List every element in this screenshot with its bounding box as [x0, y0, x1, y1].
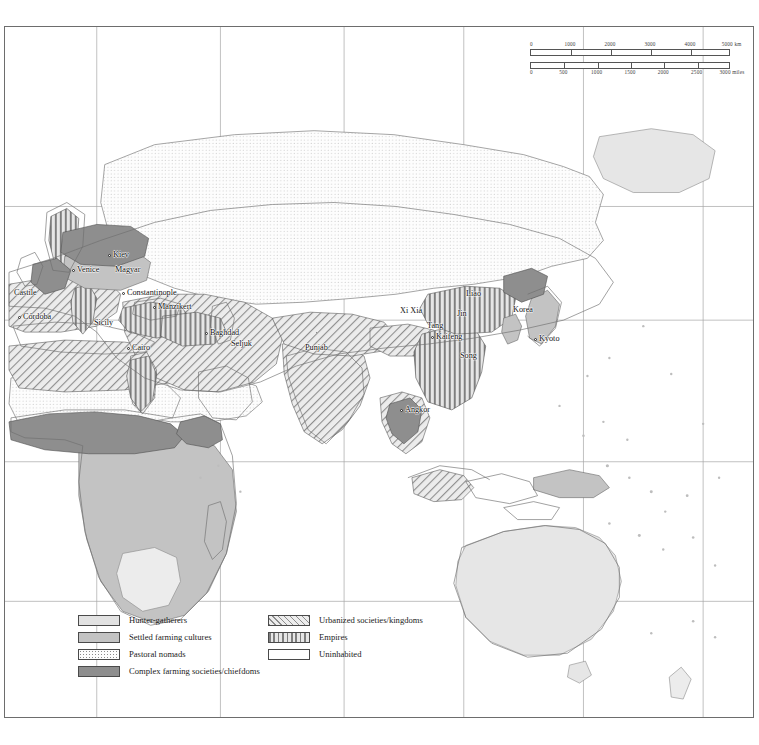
legend-swatch [78, 615, 120, 626]
scale-bar: 010002000300040005000 km0500100015002000… [530, 38, 736, 74]
scale-tick [631, 63, 632, 68]
scale-label: 4000 [684, 41, 695, 47]
legend-label: Pastoral nomads [129, 650, 186, 659]
legend-item: Settled farming cultures [78, 629, 260, 646]
scale-label: 3000 [644, 41, 655, 47]
legend-item: Uninhabited [268, 646, 423, 663]
scale-bar-miles-track [530, 62, 730, 69]
legend-label: Complex farming societies/chiefdoms [129, 667, 260, 676]
legend-label: Uninhabited [319, 650, 361, 659]
scale-tick [564, 63, 565, 68]
scale-tick [691, 50, 692, 55]
legend-column-right: Urbanized societies/kingdomsEmpiresUninh… [268, 612, 423, 663]
scale-tick [571, 50, 572, 55]
scale-label: 1000 [564, 41, 575, 47]
scale-bar-km-track [530, 49, 730, 56]
legend-item: Complex farming societies/chiefdoms [78, 663, 260, 680]
legend-column-left: Hunter-gatherersSettled farming cultures… [78, 612, 260, 680]
legend-swatch [268, 632, 310, 643]
scale-tick [664, 63, 665, 68]
scale-label: 2000 [658, 69, 669, 75]
legend-swatch [78, 649, 120, 660]
legend-item: Pastoral nomads [78, 646, 260, 663]
legend-label: Hunter-gatherers [129, 616, 187, 625]
scale-label: 1000 [591, 69, 602, 75]
scale-label: 0 [530, 69, 533, 75]
scale-label: 500 [559, 69, 567, 75]
scale-tick [611, 50, 612, 55]
legend-swatch [78, 632, 120, 643]
legend-swatch [268, 649, 310, 660]
legend-label: Empires [319, 633, 348, 642]
legend-item: Hunter-gatherers [78, 612, 260, 629]
scale-tick [598, 63, 599, 68]
legend-label: Settled farming cultures [129, 633, 212, 642]
legend-swatch [268, 615, 310, 626]
map-legend: Hunter-gatherersSettled farming cultures… [78, 612, 498, 688]
scale-label: 1500 [624, 69, 635, 75]
scale-label: 0 [530, 41, 533, 47]
scale-label: 2000 [604, 41, 615, 47]
legend-label: Urbanized societies/kingdoms [319, 616, 423, 625]
scale-tick [651, 50, 652, 55]
map-page: CastileCórdobaVeniceKievMagyarConstantin… [0, 0, 759, 745]
legend-item: Urbanized societies/kingdoms [268, 612, 423, 629]
scale-label: 2500 [691, 69, 702, 75]
scale-label: 5000 km [722, 41, 742, 47]
scale-label: 3000 miles [720, 69, 745, 75]
scale-tick [698, 63, 699, 68]
legend-swatch [78, 666, 120, 677]
legend-item: Empires [268, 629, 423, 646]
